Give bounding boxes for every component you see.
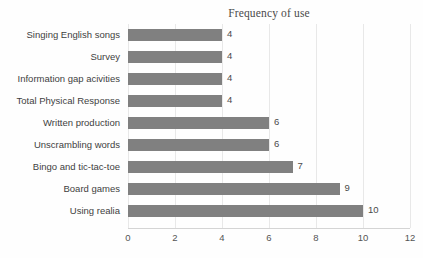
x-tick-label: 8	[304, 231, 328, 245]
category-label: Total Physical Response	[0, 95, 120, 107]
bar-row: 4	[128, 46, 410, 68]
bar	[128, 117, 269, 129]
bar-value-label: 6	[274, 137, 279, 150]
gridline-12	[410, 24, 411, 228]
bar	[128, 183, 340, 195]
bar-row: 6	[128, 134, 410, 156]
x-tick-label: 12	[398, 231, 422, 245]
bar	[128, 161, 293, 173]
x-tick-label: 2	[163, 231, 187, 245]
bar-value-label: 4	[227, 49, 232, 62]
bar	[128, 205, 363, 217]
bar	[128, 51, 222, 63]
x-tick-label: 0	[116, 231, 140, 245]
plot-area: 4444667910	[128, 24, 410, 228]
bar-value-label: 4	[227, 71, 232, 84]
x-tick-label: 10	[351, 231, 375, 245]
category-label: Using realia	[0, 205, 120, 217]
frequency-of-use-bar-chart: Frequency of use Singing English songsSu…	[0, 0, 423, 258]
bar	[128, 95, 222, 107]
x-tick-label: 6	[257, 231, 281, 245]
x-tick-label: 4	[210, 231, 234, 245]
bar-value-label: 10	[368, 203, 379, 216]
category-axis-labels: Singing English songsSurveyInformation g…	[0, 24, 123, 228]
bar-row: 4	[128, 24, 410, 46]
chart-title: Frequency of use	[128, 7, 410, 19]
category-label: Written production	[0, 117, 120, 129]
x-axis-tick-labels: 024681012	[0, 231, 423, 251]
x-axis-line	[128, 228, 410, 229]
bar-value-label: 6	[274, 115, 279, 128]
bar-row: 6	[128, 112, 410, 134]
bar-value-label: 7	[298, 159, 303, 172]
bar-row: 7	[128, 156, 410, 178]
bar-row: 4	[128, 68, 410, 90]
bar-value-label: 9	[345, 181, 350, 194]
bar-value-label: 4	[227, 93, 232, 106]
bar	[128, 139, 269, 151]
bar-row: 9	[128, 178, 410, 200]
bar-value-label: 4	[227, 27, 232, 40]
category-label: Unscrambling words	[0, 139, 120, 151]
bar	[128, 73, 222, 85]
category-label: Singing English songs	[0, 29, 120, 41]
category-label: Information gap acivities	[0, 73, 120, 85]
category-label: Bingo and tic-tac-toe	[0, 161, 120, 173]
bar-row: 10	[128, 200, 410, 222]
category-label: Survey	[0, 51, 120, 63]
bar-row: 4	[128, 90, 410, 112]
category-label: Board games	[0, 183, 120, 195]
bar	[128, 29, 222, 41]
